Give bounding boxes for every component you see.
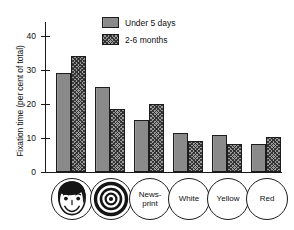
bar-white-under5days [173, 133, 188, 172]
bar-yellow-under5days [212, 135, 227, 173]
legend-swatch-under5days [102, 17, 119, 28]
legend-swatch-2to6months [102, 34, 119, 45]
y-tick-0: 0 [41, 172, 50, 173]
category-white: White [168, 178, 210, 220]
legend-item-under5days: Under 5 days [102, 16, 176, 29]
y-tick-label-0: 0 [31, 168, 36, 177]
category-red: Red [246, 178, 288, 220]
bar-red-under5days [251, 144, 266, 172]
smiling-face-icon [51, 178, 93, 220]
legend: Under 5 days 2-6 months [102, 16, 176, 50]
bar-yellow-2to6months [227, 144, 242, 172]
y-tick-label-40: 40 [27, 31, 36, 40]
bar-bullseye-2to6months [110, 109, 125, 172]
bar-red-2to6months [266, 137, 281, 172]
category-label-red: Red [260, 194, 275, 204]
bar-bullseye-under5days [95, 87, 110, 172]
category-newsprint: News- print [129, 178, 171, 220]
x-axis-category-labels: News- print White Yellow Red [45, 178, 282, 226]
bar-white-2to6months [188, 141, 203, 172]
legend-label-2to6months: 2-6 months [125, 35, 168, 45]
y-tick-label-10: 10 [27, 134, 36, 143]
category-label-yellow: Yellow [217, 194, 240, 204]
y-axis-title: Fixation time (per cent of total) [15, 21, 25, 181]
bar-newsprint-under5days [134, 120, 149, 172]
y-tick-label-20: 20 [27, 100, 36, 109]
category-label-newsprint: News- print [139, 190, 162, 209]
category-bullseye [90, 178, 132, 220]
fixation-time-bar-chart: Fixation time (per cent of total) 0 10 2… [0, 0, 294, 230]
category-face [51, 178, 93, 220]
legend-item-2to6months: 2-6 months [102, 33, 176, 46]
x-axis-line [45, 172, 282, 173]
bar-face-under5days [56, 73, 71, 172]
category-label-white: White [179, 194, 199, 204]
category-yellow: Yellow [207, 178, 249, 220]
y-tick-label-30: 30 [27, 65, 36, 74]
bar-newsprint-2to6months [149, 104, 164, 172]
legend-label-under5days: Under 5 days [125, 18, 176, 28]
bullseye-icon [90, 178, 132, 220]
bar-face-2to6months [71, 56, 86, 172]
